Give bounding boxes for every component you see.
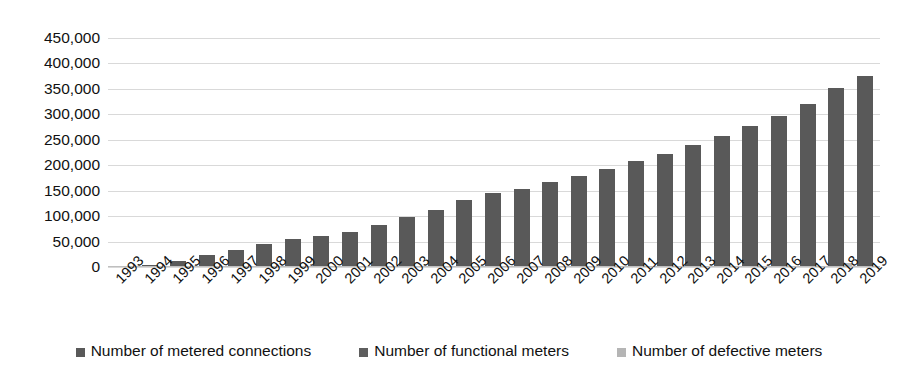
bar-group xyxy=(766,38,795,267)
bar-group xyxy=(222,38,251,267)
bar-group xyxy=(194,38,223,267)
bar-group xyxy=(280,38,309,267)
legend-swatch-icon xyxy=(359,348,368,357)
bar xyxy=(542,182,558,267)
y-axis-tick-label: 300,000 xyxy=(0,106,100,122)
bar-group xyxy=(737,38,766,267)
bar-group xyxy=(794,38,823,267)
bar-group xyxy=(394,38,423,267)
y-axis-tick-label: 100,000 xyxy=(0,208,100,224)
bar-group xyxy=(165,38,194,267)
legend-label: Number of functional meters xyxy=(374,343,569,359)
bar-group xyxy=(680,38,709,267)
bar xyxy=(742,126,758,267)
y-axis-tick-label: 250,000 xyxy=(0,132,100,148)
bar xyxy=(857,76,873,267)
bar-group xyxy=(537,38,566,267)
legend-swatch-icon xyxy=(617,348,626,357)
y-axis-tick-label: 450,000 xyxy=(0,30,100,46)
bar-group xyxy=(851,38,880,267)
bar xyxy=(628,161,644,267)
bar-group xyxy=(108,38,137,267)
bar-group xyxy=(423,38,452,267)
bar xyxy=(428,210,444,268)
y-axis-tick-label: 50,000 xyxy=(0,234,100,250)
bar-group xyxy=(480,38,509,267)
legend-label: Number of metered connections xyxy=(91,343,312,359)
bar xyxy=(714,136,730,267)
x-axis: 1993199419951996199719981999200020012002… xyxy=(108,270,880,332)
bar-group xyxy=(708,38,737,267)
bar xyxy=(828,88,844,267)
plot-area xyxy=(108,38,880,267)
legend-item[interactable]: Number of metered connections xyxy=(76,343,312,359)
bar-group xyxy=(623,38,652,267)
chart-legend: Number of metered connectionsNumber of f… xyxy=(0,338,898,364)
legend-label: Number of defective meters xyxy=(632,343,822,359)
bar-group xyxy=(251,38,280,267)
y-axis-tick-label: 400,000 xyxy=(0,55,100,71)
y-axis-tick-label: 0 xyxy=(0,259,100,275)
bar-group xyxy=(451,38,480,267)
bar xyxy=(800,104,816,267)
bar xyxy=(571,176,587,267)
bar xyxy=(599,169,615,267)
bar xyxy=(485,193,501,267)
legend-item[interactable]: Number of functional meters xyxy=(359,343,569,359)
bar-group xyxy=(308,38,337,267)
bar-group xyxy=(337,38,366,267)
bar-group xyxy=(365,38,394,267)
bar-group xyxy=(508,38,537,267)
legend-item[interactable]: Number of defective meters xyxy=(617,343,822,359)
bar xyxy=(514,189,530,267)
y-axis-tick-label: 350,000 xyxy=(0,81,100,97)
bar xyxy=(657,154,673,267)
bar-group xyxy=(594,38,623,267)
bar xyxy=(771,116,787,267)
bar-chart: 450,000400,000350,000300,000250,000200,0… xyxy=(0,0,898,379)
bar-group xyxy=(651,38,680,267)
bar-group xyxy=(823,38,852,267)
y-axis-tick-label: 150,000 xyxy=(0,183,100,199)
bar xyxy=(685,145,701,267)
legend-swatch-icon xyxy=(76,348,85,357)
bar xyxy=(456,200,472,267)
bar-series-container xyxy=(108,38,880,267)
y-axis-tick-label: 200,000 xyxy=(0,157,100,173)
bar-group xyxy=(565,38,594,267)
bar-group xyxy=(137,38,166,267)
